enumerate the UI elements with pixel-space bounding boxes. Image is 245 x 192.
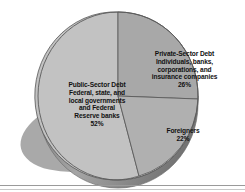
slice-value-public-sector-debt: 52% — [47, 120, 147, 128]
slice-label-private-sector-debt: Private-Sector Debt Individuals, banks, … — [137, 50, 232, 89]
figure-bottom-rule-secondary — [0, 189, 245, 190]
slice-label-public-sector-debt: Public-Sector Debt Federal, state, and l… — [47, 81, 147, 128]
slice-label-line: Reserve banks — [47, 112, 147, 120]
slice-label-line: corporations, and — [137, 66, 232, 74]
slice-label-foreigners: Foreigners 22% — [147, 127, 219, 143]
slice-value-private-sector-debt: 26% — [137, 81, 232, 89]
slice-label-line: Public-Sector Debt — [47, 81, 147, 89]
slice-label-line: Foreigners — [147, 127, 219, 135]
slice-label-line: and Federal — [47, 104, 147, 112]
pie-chart-figure: Public-Sector Debt Federal, state, and l… — [0, 0, 245, 192]
slice-label-line: local governments — [47, 97, 147, 105]
slice-label-line: Federal, state, and — [47, 89, 147, 97]
slice-value-foreigners: 22% — [147, 135, 219, 143]
slice-label-line: Private-Sector Debt — [137, 50, 232, 58]
slice-label-line: insurance companies — [137, 73, 232, 81]
slice-label-line: Individuals, banks, — [137, 58, 232, 66]
figure-bottom-rule — [0, 185, 245, 186]
